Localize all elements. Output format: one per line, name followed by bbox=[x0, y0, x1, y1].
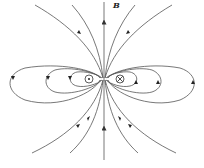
bottom-left-inner-line bbox=[70, 80, 103, 153]
field-lines bbox=[10, 2, 194, 160]
left-conductor bbox=[85, 75, 93, 83]
direction-arrows bbox=[11, 30, 195, 128]
bottom-right-outer-line bbox=[105, 80, 176, 153]
right-conductor bbox=[116, 75, 124, 83]
top-right-inner-line bbox=[105, 5, 135, 78]
magnetic-field-diagram: B bbox=[0, 0, 204, 168]
top-left-inner-line bbox=[72, 5, 103, 78]
bottom-right-inner-line bbox=[105, 80, 138, 153]
caption-fragment: … bbox=[0, 160, 204, 168]
bottom-left-outer-line bbox=[32, 80, 103, 153]
field-label: B bbox=[112, 0, 120, 10]
